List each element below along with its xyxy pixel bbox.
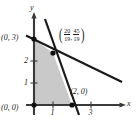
x-axis-arrowhead — [120, 102, 127, 107]
linear-programming-feasible-region-figure: y x 1 3 1 2 (0, 3) (0, 0) (2, 0) ( 20 19… — [0, 0, 136, 128]
plot-canvas — [0, 0, 136, 128]
point-dot-origin — [31, 102, 36, 107]
y-axis-arrowhead — [31, 12, 36, 19]
point-dot-vertex — [50, 50, 55, 55]
point-dot-x-intercept — [69, 102, 74, 107]
point-dot-y-intercept — [31, 36, 36, 41]
